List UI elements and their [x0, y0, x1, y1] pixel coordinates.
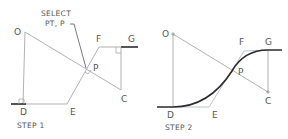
label-p-2: P: [238, 67, 244, 77]
callout-leader: [70, 24, 86, 68]
ogee-curve: [157, 50, 282, 107]
label-c: C: [121, 94, 127, 104]
label-p: P: [93, 63, 99, 73]
caption-step-1: STEP 1: [17, 121, 45, 130]
center-o-marker-icon: [171, 32, 175, 36]
label-f: F: [96, 34, 101, 44]
label-o: O: [14, 27, 21, 37]
label-c-2: C: [265, 96, 271, 106]
right-angle-g-icon: [116, 47, 121, 53]
line-oc: [25, 32, 121, 90]
caption-step-2: STEP 2: [165, 123, 193, 132]
line-oc-2: [173, 34, 268, 92]
label-g-2: G: [265, 37, 272, 47]
callout-line-1: SELECT: [41, 9, 71, 18]
label-f-2: F: [239, 37, 244, 47]
label-g: G: [128, 34, 135, 44]
callout-line-2: PT, P: [45, 19, 65, 28]
label-d: D: [20, 107, 27, 117]
label-e-2: E: [212, 110, 218, 120]
label-e: E: [70, 107, 76, 117]
label-o-2: O: [162, 29, 169, 39]
step-2-panel: O D E P F G C STEP 2: [157, 29, 282, 132]
step-1-panel: O D E P F G C SELECT PT, P STEP 1: [11, 9, 138, 130]
center-c-marker-icon: [266, 90, 270, 94]
line-od: [23, 32, 25, 104]
ogee-diagram: O D E P F G C SELECT PT, P STEP 1 O D E …: [0, 0, 288, 139]
label-d-2: D: [167, 110, 174, 120]
